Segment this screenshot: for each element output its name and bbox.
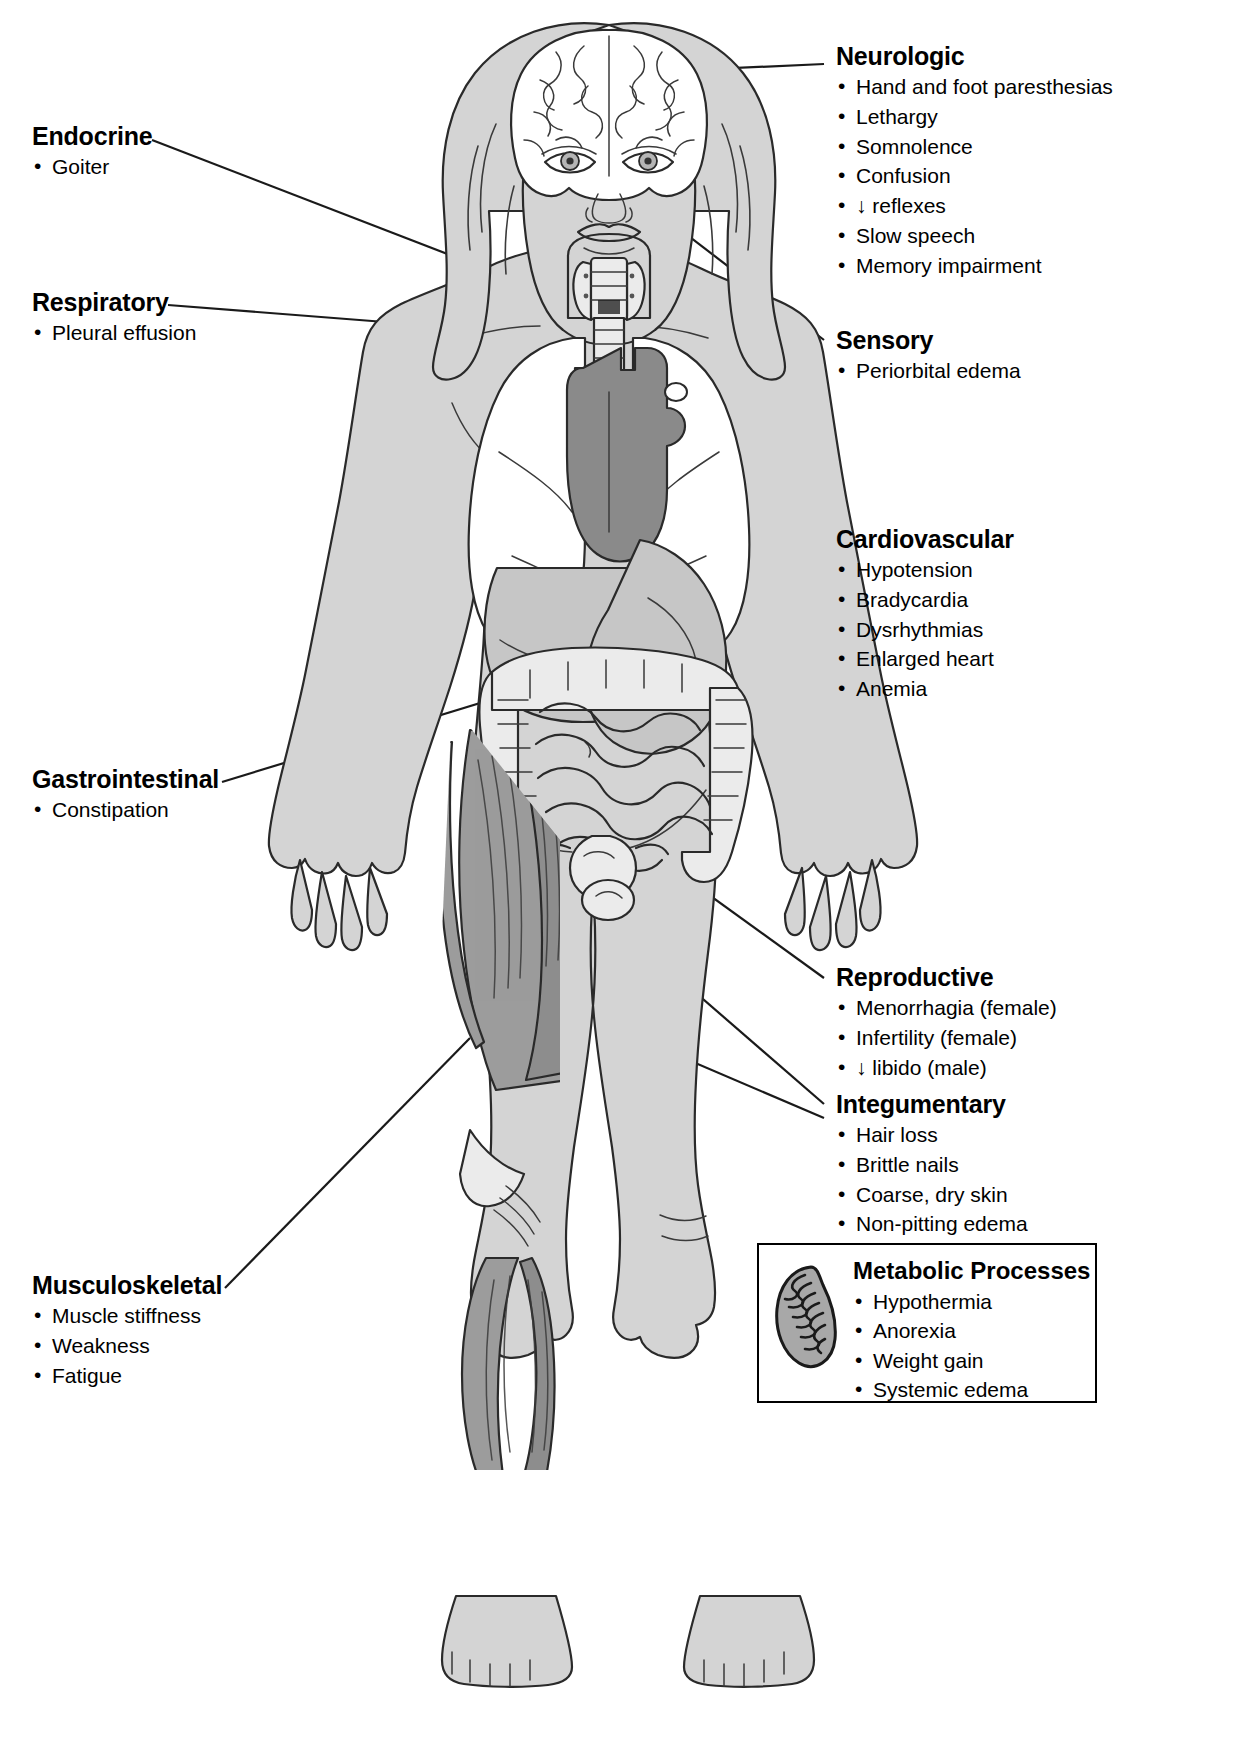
list-item: Non-pitting edema bbox=[836, 1209, 1028, 1239]
list-item: Enlarged heart bbox=[836, 644, 1014, 674]
list-item: Pleural effusion bbox=[32, 318, 196, 348]
callout-list: Periorbital edema bbox=[836, 356, 1021, 386]
callout-neurologic: Neurologic Hand and foot paresthesias Le… bbox=[836, 42, 1113, 281]
callout-title: Reproductive bbox=[836, 963, 1057, 991]
callout-list: Hand and foot paresthesias Lethargy Somn… bbox=[836, 72, 1113, 281]
callout-title: Respiratory bbox=[32, 288, 196, 316]
list-item: Goiter bbox=[32, 152, 152, 182]
callout-endocrine: Endocrine Goiter bbox=[32, 122, 152, 182]
list-item: Hypothermia bbox=[853, 1287, 1090, 1316]
list-item: Fatigue bbox=[32, 1361, 222, 1391]
diagram-canvas: .ln { fill:none; stroke:#1a1a1a; stroke-… bbox=[0, 0, 1250, 1751]
list-item: Anemia bbox=[836, 674, 1014, 704]
callout-title: Musculoskeletal bbox=[32, 1271, 222, 1299]
calf-muscles bbox=[462, 1258, 555, 1492]
list-item: Hypotension bbox=[836, 555, 1014, 585]
list-item: Somnolence bbox=[836, 132, 1113, 162]
callout-musculoskeletal: Musculoskeletal Muscle stiffness Weaknes… bbox=[32, 1271, 222, 1390]
callout-list: Hair loss Brittle nails Coarse, dry skin… bbox=[836, 1120, 1028, 1239]
callout-reproductive: Reproductive Menorrhagia (female) Infert… bbox=[836, 963, 1057, 1082]
mitochondrion-icon bbox=[771, 1257, 845, 1405]
callout-title: Cardiovascular bbox=[836, 525, 1014, 553]
list-item: Coarse, dry skin bbox=[836, 1180, 1028, 1210]
callout-list: Hypotension Bradycardia Dysrhythmias Enl… bbox=[836, 555, 1014, 704]
callout-respiratory: Respiratory Pleural effusion bbox=[32, 288, 196, 348]
thyroid-gland bbox=[573, 258, 644, 320]
callout-sensory: Sensory Periorbital edema bbox=[836, 326, 1021, 386]
metabolic-list: Hypothermia Anorexia Weight gain Systemi… bbox=[853, 1287, 1090, 1405]
list-item: Periorbital edema bbox=[836, 356, 1021, 386]
list-item: Lethargy bbox=[836, 102, 1113, 132]
callout-title: Integumentary bbox=[836, 1090, 1028, 1118]
callout-list: Goiter bbox=[32, 152, 152, 182]
list-item: Constipation bbox=[32, 795, 219, 825]
list-item: Hair loss bbox=[836, 1120, 1028, 1150]
metabolic-title: Metabolic Processes bbox=[853, 1257, 1090, 1285]
callout-list: Pleural effusion bbox=[32, 318, 196, 348]
list-item: Systemic edema bbox=[853, 1375, 1090, 1404]
list-item: Menorrhagia (female) bbox=[836, 993, 1057, 1023]
callout-list: Muscle stiffness Weakness Fatigue bbox=[32, 1301, 222, 1390]
feet bbox=[442, 1596, 814, 1687]
list-item: Slow speech bbox=[836, 221, 1113, 251]
callout-cardiovascular: Cardiovascular Hypotension Bradycardia D… bbox=[836, 525, 1014, 704]
callout-list: Menorrhagia (female) Infertility (female… bbox=[836, 993, 1057, 1082]
callout-list: Constipation bbox=[32, 795, 219, 825]
list-item: Memory impairment bbox=[836, 251, 1113, 281]
list-item: Infertility (female) bbox=[836, 1023, 1057, 1053]
list-item: Confusion bbox=[836, 161, 1113, 191]
list-item: Hand and foot paresthesias bbox=[836, 72, 1113, 102]
callout-title: Endocrine bbox=[32, 122, 152, 150]
list-item: Dysrhythmias bbox=[836, 615, 1014, 645]
callout-integumentary: Integumentary Hair loss Brittle nails Co… bbox=[836, 1090, 1028, 1239]
list-item: ↓ libido (male) bbox=[836, 1053, 1057, 1083]
callout-title: Sensory bbox=[836, 326, 1021, 354]
callout-gastrointestinal: Gastrointestinal Constipation bbox=[32, 765, 219, 825]
list-item: Weakness bbox=[32, 1331, 222, 1361]
list-item: Bradycardia bbox=[836, 585, 1014, 615]
metabolic-processes-box: Metabolic Processes Hypothermia Anorexia… bbox=[757, 1243, 1097, 1403]
callout-title: Neurologic bbox=[836, 42, 1113, 70]
list-item: Weight gain bbox=[853, 1346, 1090, 1375]
list-item: Brittle nails bbox=[836, 1150, 1028, 1180]
callout-title: Gastrointestinal bbox=[32, 765, 219, 793]
list-item: ↓ reflexes bbox=[836, 191, 1113, 221]
list-item: Muscle stiffness bbox=[32, 1301, 222, 1331]
list-item: Anorexia bbox=[853, 1316, 1090, 1345]
